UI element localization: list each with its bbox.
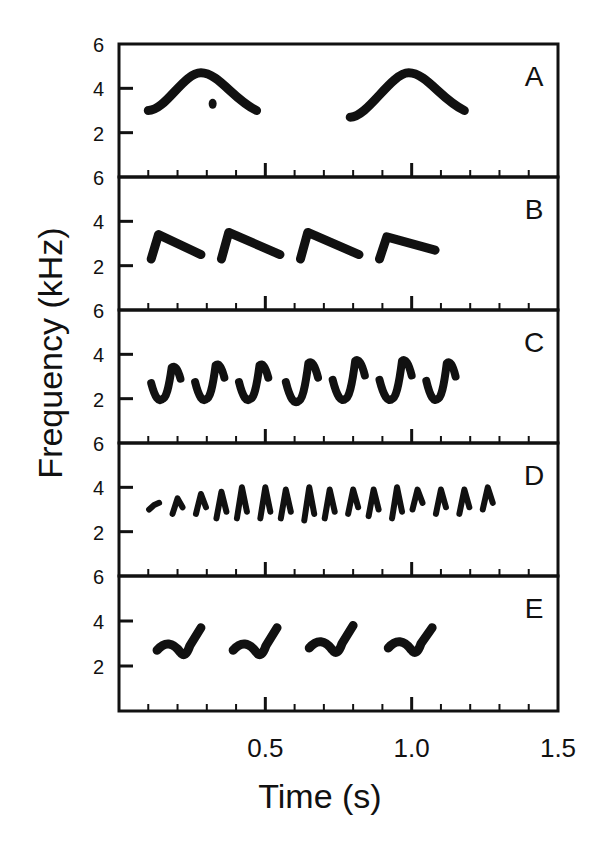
y-tick-label: 6 xyxy=(93,566,104,588)
syllable xyxy=(348,490,358,514)
syllable xyxy=(195,364,224,400)
syllable xyxy=(157,628,201,655)
syllable xyxy=(304,487,314,520)
syllable xyxy=(369,490,379,517)
syllable xyxy=(459,490,469,514)
syllable xyxy=(379,237,435,259)
y-tick-label: 6 xyxy=(93,167,104,189)
y-tick-label: 2 xyxy=(93,656,104,678)
syllable xyxy=(325,490,335,519)
y-tick-label: 4 xyxy=(93,477,104,499)
syllable xyxy=(233,628,277,655)
syllable xyxy=(350,73,464,117)
y-tick-label: 2 xyxy=(93,256,104,278)
syllable xyxy=(221,232,280,259)
panel-b: 642B xyxy=(93,167,558,310)
y-tick-label: 6 xyxy=(93,433,104,455)
y-tick-label: 2 xyxy=(93,389,104,411)
panel-a: 642A xyxy=(93,34,558,177)
panel-letter: B xyxy=(525,194,544,225)
x-axis-label: Time (s) xyxy=(258,777,381,815)
syllable xyxy=(286,362,318,402)
y-axis-label: Frequency (kHz) xyxy=(31,227,69,478)
syllable xyxy=(260,487,270,518)
syllable xyxy=(216,492,226,519)
panel-frame xyxy=(119,310,558,443)
syllable xyxy=(196,494,206,514)
syllable xyxy=(148,73,256,111)
x-tick-label: 1.5 xyxy=(540,733,576,763)
y-tick-label: 2 xyxy=(93,522,104,544)
syllable-fragment xyxy=(209,99,217,109)
syllable xyxy=(239,364,268,400)
x-tick-label: 0.5 xyxy=(247,733,283,763)
syllable xyxy=(151,367,180,401)
syllable xyxy=(309,626,353,653)
syllable xyxy=(413,490,423,510)
panel-letter: D xyxy=(524,460,544,491)
syllable xyxy=(333,360,365,400)
panels: 642A642B642C642D642E xyxy=(93,34,558,711)
y-tick-label: 4 xyxy=(93,344,104,366)
y-tick-label: 2 xyxy=(93,123,104,145)
x-tick-label: 1.0 xyxy=(394,733,430,763)
y-tick-label: 6 xyxy=(93,300,104,322)
syllable xyxy=(300,232,359,259)
syllable xyxy=(173,498,183,514)
syllable xyxy=(149,503,159,510)
panel-e: 642E xyxy=(93,566,558,711)
syllable xyxy=(436,490,446,514)
y-tick-label: 4 xyxy=(93,78,104,100)
syllable xyxy=(151,235,201,259)
syllable xyxy=(281,490,291,519)
syllable xyxy=(379,360,411,400)
y-tick-label: 6 xyxy=(93,34,104,56)
x-axis: 0.51.01.5 xyxy=(247,733,576,763)
syllable xyxy=(426,362,455,400)
syllable xyxy=(388,628,432,653)
syllable xyxy=(483,487,493,509)
panel-d: 642D xyxy=(93,433,558,576)
spectrogram-figure: 642A642B642C642D642E 0.51.01.5 Time (s) … xyxy=(0,0,606,846)
panel-frame xyxy=(119,443,558,576)
panel-frame xyxy=(119,44,558,177)
panel-letter: E xyxy=(525,593,544,624)
panel-letter: C xyxy=(524,327,544,358)
panel-letter: A xyxy=(525,61,544,92)
y-tick-label: 4 xyxy=(93,211,104,233)
panel-c: 642C xyxy=(93,300,558,443)
y-tick-label: 4 xyxy=(93,611,104,633)
syllable xyxy=(392,487,402,518)
syllable xyxy=(237,487,247,518)
